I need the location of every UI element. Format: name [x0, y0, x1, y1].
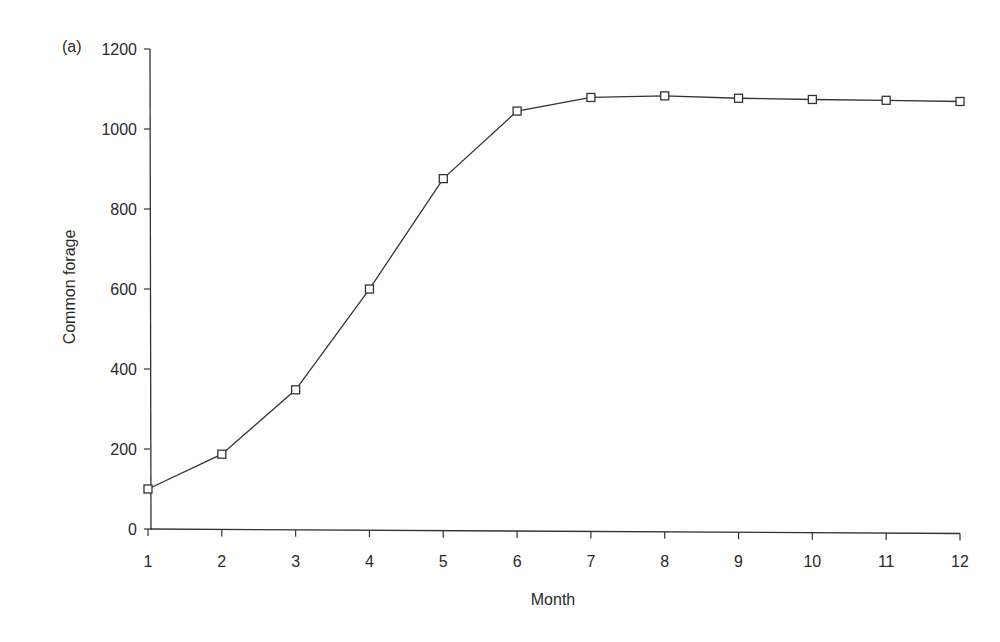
x-tick-label: 11: [878, 553, 895, 570]
x-tick-label: 9: [734, 553, 743, 570]
y-axis-title: Common forage: [61, 230, 78, 345]
y-axis: 020040060080010001200: [101, 41, 151, 538]
x-tick-label: 1: [144, 553, 153, 570]
x-tick-label: 3: [291, 553, 300, 570]
x-tick-label: 10: [803, 553, 821, 570]
panel-label: (a): [62, 38, 82, 55]
x-axis: 123456789101112: [144, 529, 969, 570]
square-marker: [587, 93, 595, 101]
y-tick-label: 1000: [101, 121, 137, 138]
x-tick-label: 7: [586, 553, 595, 570]
data-series: [144, 92, 964, 493]
x-tick-label: 6: [513, 553, 522, 570]
y-tick-label: 600: [110, 281, 137, 298]
square-marker: [365, 285, 373, 293]
x-tick-label: 4: [365, 553, 374, 570]
square-marker: [661, 92, 669, 100]
y-tick-label: 0: [128, 521, 137, 538]
square-marker: [735, 94, 743, 102]
y-tick-label: 400: [110, 361, 137, 378]
x-tick-label: 12: [951, 553, 969, 570]
x-axis-title: Month: [531, 591, 575, 608]
line-chart: (a) 020040060080010001200 12345678910111…: [0, 0, 1000, 642]
square-marker: [218, 450, 226, 458]
x-tick-label: 2: [217, 553, 226, 570]
square-marker: [439, 175, 447, 183]
square-marker: [513, 107, 521, 115]
y-tick-label: 800: [110, 201, 137, 218]
series-line: [148, 96, 960, 489]
square-marker: [808, 95, 816, 103]
square-marker: [292, 386, 300, 394]
y-tick-label: 200: [110, 441, 137, 458]
x-tick-label: 5: [439, 553, 448, 570]
square-marker: [882, 96, 890, 104]
y-tick-label: 1200: [101, 41, 137, 58]
square-marker: [956, 98, 964, 106]
x-tick-label: 8: [660, 553, 669, 570]
square-marker: [144, 485, 152, 493]
